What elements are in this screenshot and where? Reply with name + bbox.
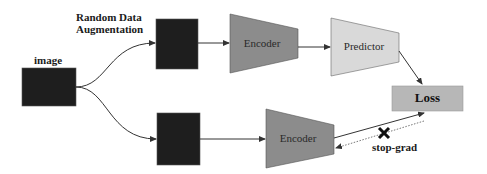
edge-image-to-view-top (76, 43, 155, 87)
stop-grad-cross-icon (379, 128, 389, 138)
edge-image-to-view-bottom (76, 87, 156, 139)
encoder-bottom-label: Encoder (266, 132, 330, 144)
encoder-top-label: Encoder (230, 37, 294, 49)
edge-encoder-bottom-to-loss (334, 113, 424, 138)
input-image-node (22, 68, 76, 106)
augmentation-label: Random Data Augmentation (76, 11, 143, 35)
stop-grad-label: stop-grad (372, 141, 417, 153)
augmentation-label-line1: Random Data (76, 11, 143, 23)
edge-predictor-to-loss (399, 51, 422, 84)
predictor-label: Predictor (331, 40, 397, 52)
augmented-view-bottom (157, 113, 200, 165)
augmented-view-top (156, 19, 198, 69)
image-label: image (34, 54, 62, 66)
augmentation-label-line2: Augmentation (76, 23, 143, 35)
loss-label: Loss (392, 90, 463, 106)
